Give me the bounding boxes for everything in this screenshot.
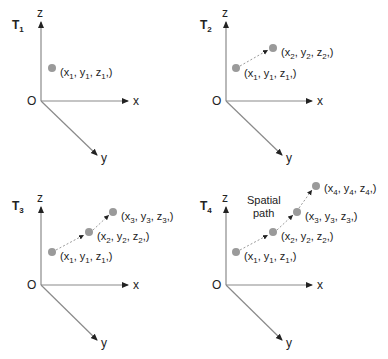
panel-t3: T3 z x y O (x1, y1, z1,) (x2, y2, z2,) (… [12, 191, 174, 350]
panel-title: T1 [12, 18, 24, 34]
y-axis-label: y [286, 151, 292, 165]
path-segment [277, 215, 293, 230]
point-label: (x2, y2, z2,) [281, 46, 334, 61]
x-axis-label: x [133, 278, 139, 292]
panel-t4: T4 z x y O Spatial path (x1, y1, z1,) (x… [200, 182, 377, 350]
panel-t2: T2 z x y O (x1, y1, z1,) (x2, y2, z2,) [200, 6, 334, 165]
point-label: (x3, y3, z3,) [305, 210, 358, 225]
data-point [109, 208, 117, 216]
panel-title: T2 [200, 18, 212, 34]
panel-title: T4 [200, 199, 212, 215]
data-point [232, 248, 240, 256]
point-label: (x1, y1, z1,) [60, 250, 113, 265]
point-label: (x4, y4, z4,) [324, 182, 377, 197]
y-axis-label: y [286, 336, 292, 350]
point-label: (x3, y3, z3,) [121, 210, 174, 225]
path-segment [299, 190, 312, 208]
z-axis-label: z [222, 191, 228, 205]
spatial-path-annotation: Spatial [247, 194, 281, 206]
y-axis [41, 285, 97, 340]
y-axis-label: y [101, 336, 107, 350]
y-axis-label: y [101, 151, 107, 165]
data-point [269, 44, 277, 52]
spatial-path-annotation: path [253, 207, 274, 219]
data-point [293, 208, 301, 216]
data-point [85, 228, 93, 236]
x-axis-label: x [133, 94, 139, 108]
data-point [48, 64, 56, 72]
y-axis [226, 285, 282, 340]
data-point [312, 182, 320, 190]
y-axis [226, 101, 282, 155]
point-label: (x1, y1, z1,) [60, 66, 113, 81]
z-axis-label: z [222, 6, 228, 20]
z-axis-label: z [37, 191, 43, 205]
origin-label: O [27, 278, 36, 292]
z-axis-label: z [37, 6, 43, 20]
path-segment [240, 50, 268, 66]
point-label: (x1, y1, z1,) [244, 67, 297, 82]
path-segment [240, 235, 268, 250]
panel-t1: T1 z x y O (x1, y1, z1,) [12, 6, 139, 165]
data-point [269, 228, 277, 236]
origin-label: O [212, 278, 221, 292]
point-label: (x2, y2, z2,) [97, 230, 150, 245]
point-label: (x1, y1, z1,) [244, 250, 297, 265]
path-segment [56, 235, 84, 250]
x-axis-label: x [317, 278, 323, 292]
origin-label: O [212, 94, 221, 108]
path-segment [93, 215, 109, 230]
point-label: (x2, y2, z2,) [281, 230, 334, 245]
y-axis [41, 101, 97, 155]
data-point [48, 248, 56, 256]
spatial-path-diagram: T1 z x y O (x1, y1, z1,) T2 z x y O (x1,… [0, 0, 388, 359]
data-point [232, 64, 240, 72]
x-axis-label: x [317, 94, 323, 108]
origin-label: O [27, 94, 36, 108]
panel-title: T3 [12, 199, 24, 215]
